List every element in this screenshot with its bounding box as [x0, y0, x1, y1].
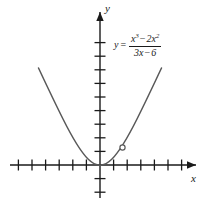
- denom-term1: 3x: [134, 47, 143, 58]
- graph-figure: x y y = x3−2x2 3x−6: [0, 0, 208, 209]
- equation-numerator: x3−2x2: [129, 33, 161, 46]
- y-axis-label: y: [105, 3, 110, 14]
- equation-annotation: y = x3−2x2 3x−6: [114, 33, 161, 58]
- y-axis: [96, 12, 103, 198]
- plot-canvas: [0, 0, 208, 209]
- equation-equals-sign: =: [120, 40, 126, 51]
- equation-lhs: y: [114, 40, 118, 51]
- hole-open-circle: [120, 145, 125, 150]
- denom-term2: 6: [151, 47, 156, 58]
- x-axis-label: x: [191, 173, 196, 184]
- equation-fraction: x3−2x2 3x−6: [129, 33, 161, 58]
- equation-denominator: 3x−6: [132, 47, 158, 59]
- numer-term2-exponent: 2: [156, 32, 159, 39]
